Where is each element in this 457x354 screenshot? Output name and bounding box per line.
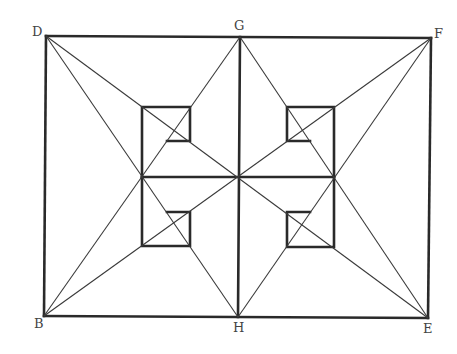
label-E: E (423, 321, 433, 336)
geometry-diagram: D G F B H E (0, 0, 457, 354)
label-D: D (32, 24, 42, 39)
edge-FE (428, 38, 431, 318)
label-G: G (234, 18, 244, 33)
edge-EB (44, 316, 428, 318)
label-B: B (34, 316, 44, 331)
edge-BD (44, 36, 46, 316)
edge-DF (46, 36, 431, 38)
label-H: H (233, 320, 244, 335)
label-F: F (434, 26, 443, 41)
